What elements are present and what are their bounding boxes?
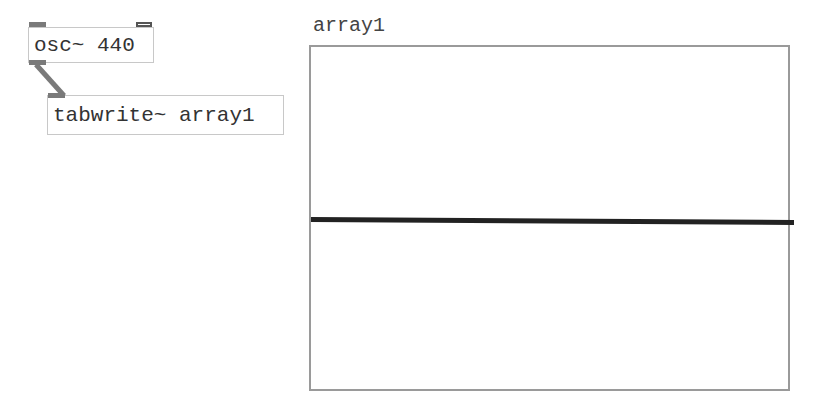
object-text: osc~ 440 [34, 34, 135, 58]
tabwrite-inlet[interactable] [48, 93, 65, 98]
array-label: array1 [313, 14, 385, 37]
osc-inlet-left[interactable] [29, 22, 46, 27]
osc-object[interactable]: osc~ 440 [28, 27, 154, 63]
object-text: tabwrite~ array1 [53, 104, 255, 128]
osc-inlet-right[interactable] [136, 22, 152, 27]
tabwrite-object[interactable]: tabwrite~ array1 [47, 95, 284, 135]
